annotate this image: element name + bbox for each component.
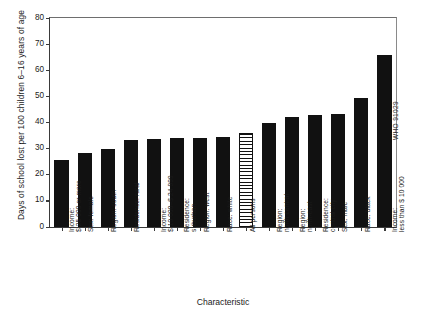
- x-tick-mark: [269, 227, 270, 231]
- x-tick-label-line1: Income:: [68, 208, 75, 232]
- bar: [147, 139, 161, 227]
- x-tick-mark: [338, 227, 339, 231]
- chart-figure: Days of school lost per 100 children 6–1…: [0, 0, 422, 314]
- x-tick-mark: [62, 227, 63, 231]
- x-tick-label-line1: Income:: [160, 208, 167, 232]
- x-tick-mark: [292, 227, 293, 231]
- y-tick-label: 30: [35, 143, 44, 152]
- bar: [377, 55, 391, 227]
- x-tick-mark: [223, 227, 224, 231]
- bar-series: [50, 18, 396, 227]
- x-tick-label: Residence: rural: [133, 182, 140, 232]
- bar: [54, 160, 68, 227]
- x-tick-label-line1: Region:: [299, 209, 306, 232]
- x-tick-label-line1: Sex: female: [87, 196, 94, 232]
- x-tick-label: Race: white: [226, 196, 233, 232]
- x-tick-mark: [131, 227, 132, 231]
- y-tick-label: 20: [35, 169, 44, 178]
- x-tick-label-line1: All persons: [249, 198, 256, 232]
- x-tick-label-line1: Region:: [276, 209, 283, 232]
- x-tick-label: Sex: male: [341, 202, 348, 232]
- x-tick-label: Residence:central city: [322, 198, 337, 232]
- x-tick-label: Race: black: [364, 196, 371, 232]
- who-credit-label: WHO 91029: [392, 101, 399, 140]
- y-tick-label: 50: [35, 91, 44, 100]
- x-tick-label: Income:$ 25 000 or more: [68, 180, 83, 232]
- x-tick-label-line1: Residence:: [183, 198, 190, 232]
- x-tick-label-line1: Residence: rural: [133, 182, 140, 232]
- x-tick-label: Sex: female: [87, 196, 94, 232]
- x-tick-label-line1: Race: white: [226, 196, 233, 232]
- x-tick-label: Residence:suburban: [183, 198, 198, 232]
- x-tick-label-line2: suburban: [191, 198, 198, 232]
- x-tick-label-line1: Region: west: [203, 193, 210, 232]
- x-tick-label-line1: Income:: [391, 208, 398, 232]
- x-tick-label-line1: Residence:: [322, 198, 329, 232]
- x-tick-mark: [154, 227, 155, 231]
- x-tick-mark: [177, 227, 178, 231]
- y-tick-label: 70: [35, 39, 44, 48]
- x-tick-label: Region: west: [203, 193, 210, 232]
- plot-area: 01020304050607080: [49, 17, 397, 228]
- x-tick-mark: [200, 227, 201, 231]
- x-tick-label-line2: north central: [283, 194, 290, 232]
- y-tick-label: 40: [35, 117, 44, 126]
- bar: [262, 123, 276, 228]
- x-tick-mark: [361, 227, 362, 231]
- x-tick-label-line2: $ 10 000–$ 24 999: [168, 175, 175, 232]
- x-tick-mark: [384, 227, 385, 231]
- x-tick-label: All persons: [249, 198, 256, 232]
- y-tick-label: 60: [35, 65, 44, 74]
- x-tick-mark: [85, 227, 86, 231]
- x-axis-category-labels: Income:$ 25 000 or moreSex: femaleRegion…: [49, 232, 397, 300]
- x-tick-label-line2: less than $ 10 000: [398, 176, 405, 232]
- x-tick-mark: [246, 227, 247, 231]
- x-tick-mark: [108, 227, 109, 231]
- x-tick-label: Region:north-east: [299, 201, 314, 232]
- y-tick-label: 0: [39, 222, 44, 231]
- x-tick-label: Income:$ 10 000–$ 24 999: [160, 175, 175, 232]
- x-tick-label-line1: Region: south: [110, 190, 117, 232]
- y-tick-label: 10: [35, 195, 44, 204]
- x-tick-label-line2: north-east: [306, 201, 313, 232]
- x-tick-label-line2: $ 25 000 or more: [75, 180, 82, 232]
- y-tick-label: 80: [35, 13, 44, 22]
- y-axis-title: Days of school lost per 100 children 6–1…: [16, 0, 26, 230]
- x-tick-mark: [315, 227, 316, 231]
- x-tick-label-line1: Sex: male: [341, 202, 348, 232]
- x-axis-title: Characteristic: [49, 297, 397, 307]
- x-tick-label-line2: central city: [329, 198, 336, 232]
- x-tick-label: Region:north central: [276, 194, 291, 232]
- x-tick-label: Region: south: [110, 190, 117, 232]
- x-tick-label-line1: Race: black: [364, 196, 371, 232]
- x-tick-label: Income:less than $ 10 000: [391, 176, 406, 232]
